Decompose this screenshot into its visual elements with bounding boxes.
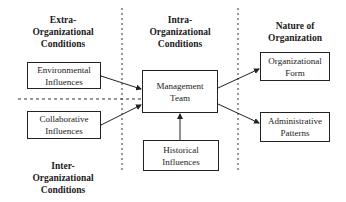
box-environmental-influences: Environmental Influences [27, 62, 101, 89]
box-organizational-form: Organizational Form [260, 52, 330, 81]
box-administrative-patterns: Administrative Patterns [260, 112, 330, 142]
arrow-env-mgmt [101, 76, 141, 89]
heading-inter-organizational: Inter- Organizational Conditions [18, 160, 108, 196]
arrow-mgmt-admin [218, 104, 259, 123]
arrow-collab-mgmt [101, 105, 141, 125]
box-collaborative-influences: Collaborative Influences [27, 111, 101, 139]
heading-nature-of-organization: Nature of Organization [250, 20, 340, 44]
heading-intra-organizational: Intra- Organizational Conditions [135, 14, 225, 50]
box-historical-influences: Historical Influences [143, 140, 219, 171]
heading-extra-organizational: Extra- Organizational Conditions [18, 14, 108, 50]
arrow-mgmt-form [218, 69, 259, 88]
box-management-team: Management Team [142, 70, 218, 113]
